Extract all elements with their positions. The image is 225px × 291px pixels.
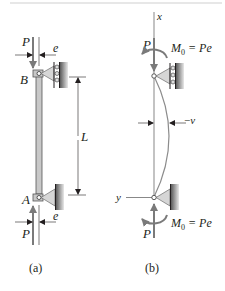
label-length: L xyxy=(80,129,88,144)
label-e-top: e xyxy=(53,41,59,55)
pin-support-bottom-b xyxy=(156,184,179,210)
label-load-top: P xyxy=(21,34,30,49)
pin-support-bottom xyxy=(41,184,64,210)
figure-a: P e B L A xyxy=(15,34,88,275)
caption-a: (a) xyxy=(29,261,42,275)
label-deflection: −v xyxy=(184,114,195,126)
figure-b: x y −v P M0 = Pe xyxy=(115,10,212,275)
label-moment-bottom: M0 = Pe xyxy=(170,216,212,232)
roller-support-top xyxy=(41,62,68,88)
deflection-curve xyxy=(154,76,169,197)
label-moment-top: M0 = Pe xyxy=(170,41,212,57)
label-axis-y: y xyxy=(115,191,121,203)
column xyxy=(36,76,42,194)
label-load-bottom-b: P xyxy=(142,226,151,241)
label-axis-x: x xyxy=(156,10,162,22)
column-diagram: P e B L A xyxy=(0,0,225,291)
pin-bottom xyxy=(37,196,41,200)
caption-b: (b) xyxy=(145,261,159,275)
label-point-b: B xyxy=(20,72,28,87)
label-load-bottom: P xyxy=(21,226,30,241)
label-e-bottom: e xyxy=(53,209,59,223)
roller-support-top-b xyxy=(156,63,184,89)
label-point-a: A xyxy=(21,192,30,207)
